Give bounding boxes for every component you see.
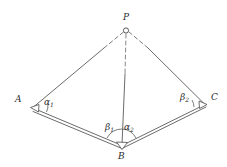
edge-c-p-dashed [129, 32, 148, 48]
figure-canvas [0, 0, 227, 167]
vertex-label-p: P [123, 13, 129, 22]
angle-arc-beta2 [192, 100, 194, 107]
vertex-label-a: A [15, 95, 22, 104]
angle-label-beta1-sub: 1 [110, 126, 114, 133]
edge-b-c-inner [122, 105, 205, 146]
edge-p-b-dashed [125, 34, 126, 74]
edge-c-p-solid [148, 48, 204, 103]
vertex-marker-p [123, 28, 128, 33]
angle-label-alpha2-sub: 2 [130, 126, 134, 133]
angle-label-alpha1: α1 [44, 98, 54, 107]
vertex-marker-b [117, 142, 128, 150]
angle-label-beta2: β2 [180, 93, 189, 102]
angle-label-beta2-sub: 2 [185, 96, 189, 103]
angle-label-beta1: β1 [105, 123, 114, 132]
edge-p-b-solid [122, 74, 125, 145]
edge-b-c-outer [122, 107, 206, 149]
geometry-figure: P A B C α1 β1 α2 β2 [0, 0, 227, 167]
vertex-label-b: B [118, 152, 125, 161]
angle-label-alpha2: α2 [124, 123, 134, 132]
vertex-label-c: C [211, 93, 218, 102]
edge-a-p-dashed [104, 32, 124, 48]
angle-label-alpha1-sub: 1 [50, 101, 54, 108]
vertex-marker-a [31, 105, 40, 113]
